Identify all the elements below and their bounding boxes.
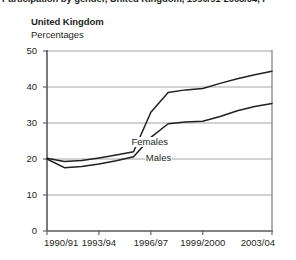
plot-area: 01020304050 1990/911993/941996/971999/20…: [0, 0, 296, 260]
series-label-females: Females: [131, 137, 169, 147]
y-tick-label: 20: [11, 154, 37, 164]
y-tick-label: 40: [11, 82, 37, 92]
y-tick-label: 30: [11, 118, 37, 128]
figure-root: Participation by gender, United Kingdom,…: [0, 0, 296, 260]
line-chart-svg: [0, 0, 296, 260]
series-label-males: Males: [145, 153, 172, 163]
x-tick-label: 2003/04: [195, 238, 275, 248]
gridlines-group: [47, 51, 272, 195]
y-tick-label: 0: [11, 226, 37, 236]
y-tick-label: 50: [11, 46, 37, 56]
y-tick-label: 10: [11, 190, 37, 200]
